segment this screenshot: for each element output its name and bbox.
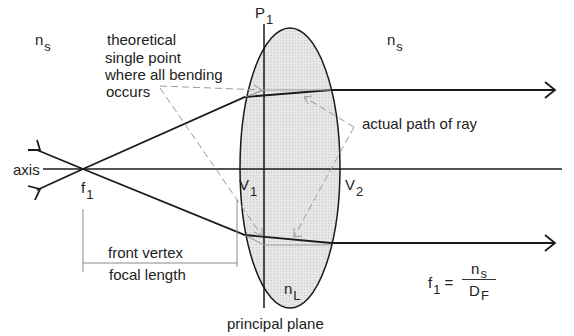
label-v1: V1 bbox=[239, 177, 257, 192]
formula-numerator: ns bbox=[471, 260, 487, 277]
label-front-vertex: front vertex bbox=[108, 245, 183, 260]
lens bbox=[240, 28, 340, 308]
label-ns-left: ns bbox=[35, 32, 51, 47]
label-v2: V2 bbox=[345, 177, 363, 192]
upper-ray bbox=[37, 150, 83, 169]
incoming-arrow-upper bbox=[28, 140, 40, 150]
label-theoretical-1: theoretical bbox=[107, 32, 176, 47]
formula-lhs: f1 = bbox=[428, 275, 453, 290]
label-theoretical-4: occurs bbox=[106, 84, 150, 99]
label-theoretical-2: single point bbox=[105, 50, 181, 65]
label-theoretical-3: where all bending bbox=[105, 67, 223, 82]
lower-ray bbox=[37, 169, 83, 190]
label-principal-plane: principal plane bbox=[227, 316, 324, 331]
label-p1: P1 bbox=[255, 5, 273, 20]
label-nL: nL bbox=[284, 281, 301, 296]
label-actual-path: actual path of ray bbox=[362, 116, 477, 131]
label-f1: f1 bbox=[81, 180, 93, 195]
incoming-arrow-lower bbox=[28, 186, 40, 200]
label-ns-right: ns bbox=[387, 32, 403, 47]
formula-bar bbox=[462, 279, 496, 280]
formula-fraction: ns DF bbox=[462, 260, 496, 299]
pointer-theoretical-upper bbox=[160, 86, 262, 90]
label-axis: axis bbox=[13, 162, 40, 177]
formula-denominator: DF bbox=[469, 282, 489, 299]
label-focal-length: focal length bbox=[109, 267, 186, 282]
